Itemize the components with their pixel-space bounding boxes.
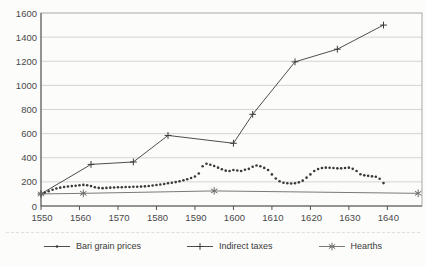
series-line-hearths [41,191,418,194]
chart-figure: 0200400600800100012001400160015501560157… [0,0,426,267]
dot-marker [132,186,135,189]
plus-marker [380,22,387,29]
dot-marker [151,184,154,187]
x-tick-label-1580: 1580 [147,212,168,223]
plus-line-marker-icon [187,242,213,251]
dot-marker [267,169,270,172]
dot-marker [351,168,354,171]
legend-item-hearths: Hearths [319,241,383,251]
dot-marker [340,167,343,170]
dot-marker [201,165,204,168]
dot-marker [74,184,77,187]
legend-item-indirect-taxes: Indirect taxes [187,241,273,251]
dot-marker [305,176,308,179]
x-tick-label-1620: 1620 [301,212,322,223]
dot-marker [186,178,189,181]
dot-marker [348,166,351,169]
dot-marker [70,185,73,188]
dot-marker [190,177,193,180]
x-tick-label-1550: 1550 [31,212,52,223]
dot-marker [236,169,239,172]
x-tick-label-1560: 1560 [70,212,91,223]
y-tick-label-1200: 1200 [16,56,37,67]
dot-marker [56,245,59,248]
plus-marker [88,161,95,168]
dot-marker [55,187,58,190]
dot-marker [232,169,235,172]
dot-marker [124,186,127,189]
dot-marker [313,170,316,173]
x-tick-label-1640: 1640 [378,212,399,223]
dot-marker [317,168,320,171]
y-tick-label-1400: 1400 [16,32,37,43]
dot-marker [294,182,297,185]
dot-marker [144,185,147,188]
dot-marker [344,167,347,170]
dot-marker [336,167,339,170]
dot-marker [255,164,258,167]
plus-marker [197,243,204,250]
legend-label-hearths: Hearths [351,241,383,251]
x-tick-label-1590: 1590 [185,212,206,223]
dot-marker [59,186,62,189]
dot-marker [321,167,324,170]
legend-item-bari-grain-prices: Bari grain prices [44,241,141,251]
y-tick-label-1000: 1000 [16,80,37,91]
legend-label-bari-grain-prices: Bari grain prices [76,241,141,251]
dot-marker [159,183,162,186]
dot-marker [263,167,266,170]
dot-marker [182,179,185,182]
dot-marker [244,169,247,172]
dot-marker [209,163,212,166]
y-tick-label-1600: 1600 [16,8,37,19]
dot-marker [82,184,85,187]
dot-marker [375,176,378,179]
dot-marker [194,175,197,178]
dot-marker [147,185,150,188]
dot-marker [298,181,301,184]
dot-marker [228,170,231,173]
x-tick-label-1570: 1570 [108,212,129,223]
dot-marker [171,181,174,184]
dot-marker [332,167,335,170]
y-tick-label-400: 400 [21,152,37,163]
dot-marker [382,182,385,185]
dot-marker [363,174,366,177]
dot-marker [136,185,139,188]
legend-label-indirect-taxes: Indirect taxes [219,241,273,251]
dot-marker [86,184,89,187]
dot-marker [101,187,104,190]
dot-marker [78,184,81,187]
dot-marker [174,181,177,184]
dot-marker [271,173,274,176]
series-hearths [38,187,422,198]
dot-marker [248,168,251,171]
dot-marker [355,170,358,173]
dot-marker [251,165,254,168]
dot-marker [309,173,312,176]
plus-marker [230,140,237,147]
dot-marker [282,181,285,184]
dot-marker [117,186,120,189]
dot-marker [224,169,227,172]
dot-marker [90,185,93,188]
dot-marker [94,186,97,189]
dot-marker [205,162,208,165]
dot-marker [67,185,70,188]
dot-marker [105,187,108,190]
dot-marker [324,166,327,169]
dot-marker [113,186,116,189]
plus-marker [334,46,341,53]
dot-marker [128,186,131,189]
dot-marker [109,186,112,189]
dot-marker [278,180,281,183]
dot-marker [121,186,124,189]
dot-marker [97,187,100,190]
x-tick-label-1600: 1600 [224,212,245,223]
dot-marker [167,182,170,185]
dot-marker [155,184,158,187]
dot-marker [286,182,289,185]
asterisk-line-marker-icon [319,242,345,251]
dot-marker [140,185,143,188]
dot-marker [240,170,243,173]
